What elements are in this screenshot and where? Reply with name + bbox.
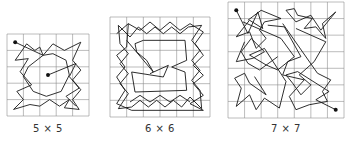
grid-6x6-figure bbox=[110, 17, 210, 117]
tour-path2 bbox=[127, 40, 187, 92]
endpoint-dot-icon bbox=[13, 40, 17, 44]
tour-path bbox=[236, 10, 281, 48]
grid-7x7-caption: 7 × 7 bbox=[271, 123, 301, 134]
grid-5x5-caption: 5 × 5 bbox=[33, 123, 63, 134]
tour-path6 bbox=[236, 38, 277, 69]
grid-6x6-board bbox=[110, 17, 210, 117]
grid-7x7-figure bbox=[228, 2, 344, 118]
endpoint-dot-icon bbox=[234, 8, 238, 12]
grid-6x6-caption: 6 × 6 bbox=[145, 123, 175, 134]
endpoint-dot-icon bbox=[46, 73, 50, 77]
grid-5x5-figure bbox=[7, 34, 89, 116]
grid-7x7-board bbox=[228, 2, 344, 118]
grid-5x5-board bbox=[7, 34, 89, 116]
endpoint-dot-icon bbox=[334, 108, 338, 112]
